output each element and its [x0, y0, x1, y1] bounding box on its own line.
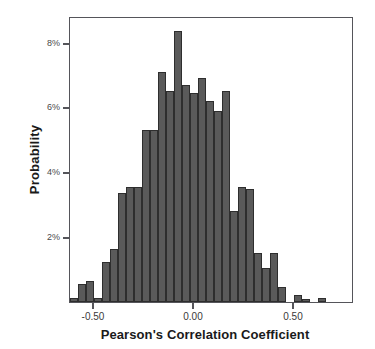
y-tick-label: 4% [20, 167, 60, 177]
histogram-bar [126, 187, 134, 302]
x-tick-label: 0.50 [263, 311, 323, 322]
plot-area [69, 17, 353, 303]
x-tick-mark [192, 303, 194, 309]
histogram-bar [206, 101, 214, 302]
histogram-bar [230, 211, 238, 302]
histogram-bar [190, 93, 198, 302]
histogram-bar [158, 72, 166, 302]
histogram-bar [238, 187, 246, 302]
histogram-bar [222, 91, 230, 302]
histogram-bar [134, 187, 142, 302]
bars-container [70, 18, 352, 302]
histogram-bar [174, 31, 182, 302]
histogram-bar [254, 253, 262, 302]
histogram-figure: Probability 2%4%6%8% -0.500.000.50 Pears… [0, 0, 375, 349]
histogram-bar [302, 299, 310, 302]
histogram-bar [150, 130, 158, 302]
histogram-bar [86, 281, 94, 302]
x-tick-label: 0.00 [163, 311, 223, 322]
y-tick-label: 8% [20, 38, 60, 48]
x-tick-mark [92, 303, 94, 309]
y-tick-label: 2% [20, 232, 60, 242]
histogram-bar [318, 298, 326, 302]
histogram-bar [78, 284, 86, 302]
histogram-bar [110, 249, 118, 303]
x-tick-mark [292, 303, 294, 309]
histogram-bar [294, 295, 302, 302]
histogram-bar [102, 262, 110, 302]
histogram-bar [182, 85, 190, 302]
histogram-bar [262, 268, 270, 302]
histogram-bar [142, 130, 150, 302]
histogram-bar [166, 91, 174, 302]
histogram-bar [94, 298, 102, 302]
histogram-bar [70, 298, 78, 302]
histogram-bar [118, 193, 126, 302]
histogram-bar [214, 111, 222, 302]
x-tick-label: -0.50 [63, 311, 123, 322]
histogram-bar [278, 287, 286, 302]
histogram-bar [270, 253, 278, 302]
x-axis-title: Pearson's Correlation Coefficient [40, 327, 370, 342]
histogram-bar [198, 78, 206, 302]
histogram-bar [246, 189, 254, 302]
y-tick-label: 6% [20, 102, 60, 112]
